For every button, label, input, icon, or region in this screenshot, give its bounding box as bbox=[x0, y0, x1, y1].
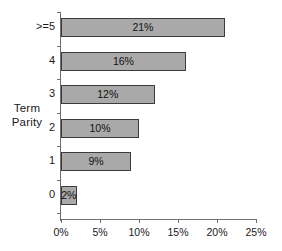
x-axis-tick-mark bbox=[256, 219, 257, 223]
x-axis-line bbox=[61, 219, 257, 220]
x-axis-tick-label: 10% bbox=[119, 226, 159, 238]
y-axis-tick-mark bbox=[57, 146, 61, 147]
x-axis-tick-label: 5% bbox=[80, 226, 120, 238]
y-axis-tick-mark bbox=[57, 180, 61, 181]
y-axis-title-line-1: Term bbox=[4, 101, 50, 115]
bar-value-label: 12% bbox=[61, 85, 155, 104]
x-axis-tick-mark bbox=[178, 219, 179, 223]
y-axis-title: Term Parity bbox=[4, 101, 50, 129]
bar-value-label: 21% bbox=[61, 18, 225, 37]
y-axis-tick-label: 4 bbox=[49, 55, 55, 66]
y-axis-tick-label: 2 bbox=[49, 122, 55, 133]
y-axis-tick-label: 3 bbox=[49, 88, 55, 99]
x-axis-tick-mark bbox=[100, 219, 101, 223]
bar-value-label: 2% bbox=[61, 186, 77, 205]
y-axis-tick-mark bbox=[57, 12, 61, 13]
x-axis-tick-label: 0% bbox=[41, 226, 81, 238]
bar-value-label: 16% bbox=[61, 52, 186, 71]
y-axis-tick-label: 1 bbox=[49, 155, 55, 166]
y-axis-tick-mark bbox=[57, 79, 61, 80]
y-axis-tick-mark bbox=[57, 46, 61, 47]
y-axis-tick-label: 0 bbox=[49, 189, 55, 200]
bar-value-label: 10% bbox=[61, 119, 139, 138]
y-axis-tick-mark bbox=[57, 113, 61, 114]
y-axis-tick-mark bbox=[57, 213, 61, 214]
y-axis-title-line-2: Parity bbox=[4, 115, 50, 129]
x-axis-tick-mark bbox=[61, 219, 62, 223]
x-axis-tick-mark bbox=[217, 219, 218, 223]
plot-area: 21%>=516%412%310%29%12%0 bbox=[61, 14, 256, 219]
bar-value-label: 9% bbox=[61, 152, 131, 171]
x-axis-tick-label: 20% bbox=[197, 226, 237, 238]
x-axis-tick-mark bbox=[139, 219, 140, 223]
bar-chart: Term Parity 21%>=516%412%310%29%12%0 0%5… bbox=[0, 0, 282, 251]
x-axis-tick-label: 25% bbox=[236, 226, 276, 238]
x-axis-tick-label: 15% bbox=[158, 226, 198, 238]
y-axis-tick-label: >=5 bbox=[36, 21, 55, 32]
